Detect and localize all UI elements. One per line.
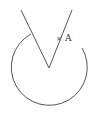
point-a-label: A — [64, 33, 72, 43]
geometry-diagram: × A — [0, 0, 96, 120]
circle-arc — [11, 34, 87, 105]
point-a-marker-icon: × — [56, 35, 62, 43]
left-ray-line — [21, 10, 49, 68]
